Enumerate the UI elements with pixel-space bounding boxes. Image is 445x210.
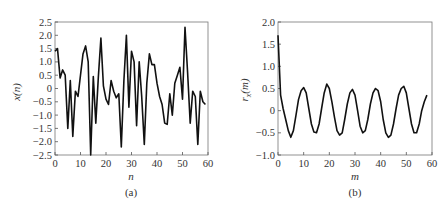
panel-a-x-axis-label: n [128,170,134,182]
panel-a-caption: (a) [125,186,138,199]
panel-b-x-axis-label: m [351,170,359,182]
panel-b-x-tick-label: 40 [375,158,386,169]
panel-a-y-ticks: 2.52.01.51.00.50−0.5−1.0−1.5−2.0−2.5 [33,17,58,161]
panel-b-x-tick-label: 50 [401,158,412,169]
panel-b-x-tick-label: 30 [350,158,361,169]
panel-a-y-tick-label: −0.5 [33,96,52,107]
panel-b-series-line [278,35,427,137]
figure: 2.52.01.51.00.50−0.5−1.0−1.5−2.0−2.5 010… [0,0,445,210]
panel-a-y-tick-label: 2.5 [39,17,52,28]
panel-a-y-tick-label: −1.5 [33,123,52,134]
panel-b-y-tick-label: 0.5 [262,83,275,94]
panel-b-caption: (b) [349,186,362,199]
panel-a-y-tick-label: −2.5 [33,150,52,161]
panel-a-x-tick-label: 10 [75,158,86,169]
panel-b-x-tick-label: 60 [427,158,438,169]
panel-a-y-tick-label: −1.0 [33,110,52,121]
panel-b-y-tick-label: 1.5 [262,39,275,50]
panel-b-y-tick-label: 1.0 [262,61,275,72]
panel-a-y-tick-label: 1.5 [39,43,52,54]
panel-a-y-tick-label: 1.0 [39,56,52,67]
panel-a-y-tick-label: 2.0 [39,30,52,41]
panel-a-x-tick-label: 30 [126,158,137,169]
panel-b-y-tick-label: 0 [270,105,275,116]
panel-a-x-tick-label: 50 [177,158,188,169]
panel-a-y-tick-label: 0 [47,83,52,94]
panel-a-x-tick-label: 20 [101,158,112,169]
panel-a-y-tick-label: 0.5 [39,70,52,81]
panel-b-y-tick-label: 2.0 [262,17,275,28]
panel-b-x-tick-label: 20 [324,158,335,169]
panel-b-chart: 2.01.51.00.50−0.5−1.0 0102030405060 m rx… [238,17,437,200]
panel-b-y-ticks: 2.01.51.00.50−0.5−1.0 [256,17,281,161]
panel-a-x-tick-label: 40 [152,158,163,169]
panel-b-y-axis-label: rx(m) [238,78,253,101]
panel-b-x-ticks: 0102030405060 [275,152,437,169]
panel-a-x-ticks: 0102030405060 [52,152,213,169]
panel-a-series-line [55,27,205,155]
panel-a-x-tick-label: 0 [52,158,57,169]
panel-b-y-tick-label: −1.0 [256,150,275,161]
panel-b-y-tick-label: −0.5 [256,127,275,138]
panel-b-x-tick-label: 10 [298,158,309,169]
panel-a-chart: 2.52.01.51.00.50−0.5−1.0−1.5−2.0−2.5 010… [10,17,213,200]
panel-b-y-axis-label-rest: (m) [238,78,251,94]
panel-b-x-tick-label: 0 [275,158,280,169]
panel-a-y-axis-label: x(n) [10,83,23,102]
panel-a-x-tick-label: 60 [203,158,214,169]
panel-b-plot-frame [278,22,432,155]
panel-a-y-tick-label: −2.0 [33,136,52,147]
